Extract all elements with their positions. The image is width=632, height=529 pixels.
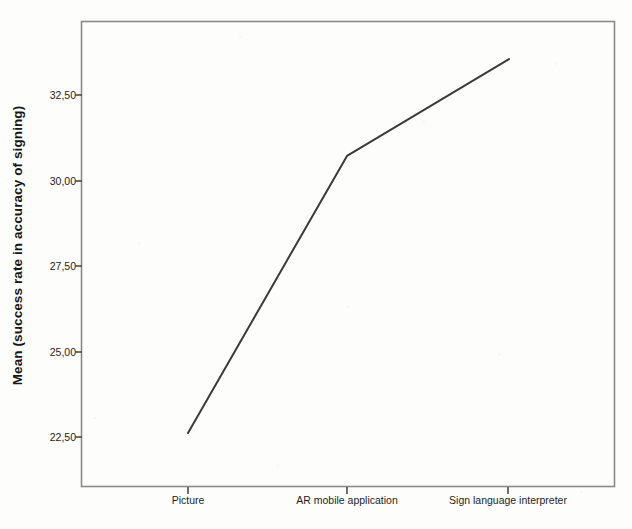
data-series-line bbox=[188, 59, 509, 433]
x-tick-label-sign-language-interpreter: Sign language interpreter bbox=[449, 494, 567, 506]
plot-frame bbox=[82, 22, 615, 487]
plot-area bbox=[0, 0, 632, 529]
line-chart-figure: Mean (success rate in accuracy of signin… bbox=[0, 0, 632, 529]
x-tick-label-ar-mobile-application: AR mobile application bbox=[296, 494, 398, 506]
x-axis-ticks bbox=[188, 487, 508, 494]
x-tick-label-picture: Picture bbox=[172, 494, 205, 506]
